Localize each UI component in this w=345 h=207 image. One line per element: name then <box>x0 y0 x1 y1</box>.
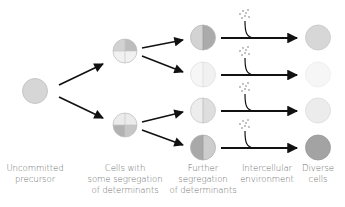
arrows-stage2-to-stage3 <box>142 40 183 145</box>
label-precursor: Uncommitted precursor <box>0 163 70 185</box>
label-diverse-line2: cells <box>295 174 341 185</box>
environment-signal-3 <box>221 82 297 111</box>
diverse-cell-3 <box>306 98 331 123</box>
label-stage3-line2: segregation <box>163 174 243 185</box>
label-env-line1: Intercellular <box>236 163 298 174</box>
label-partial-segregation: Cells with some segregation of determina… <box>80 163 170 196</box>
stage3-cell-4 <box>191 135 216 160</box>
precursor-cell <box>23 79 48 104</box>
stage2-cell-bottom <box>113 113 137 137</box>
label-environment: Intercellular environment <box>236 163 298 185</box>
label-stage2-line2: some segregation <box>80 174 170 185</box>
stage2-cell-top <box>113 39 137 63</box>
label-precursor-line1: Uncommitted <box>0 163 70 174</box>
label-diverse-cells: Diverse cells <box>295 163 341 185</box>
label-stage3-line3: of determinants <box>163 185 243 196</box>
label-env-line2: environment <box>236 174 298 185</box>
diverse-cell-1 <box>306 25 331 50</box>
label-further-segregation: Further segregation of determinants <box>163 163 243 196</box>
label-diverse-line1: Diverse <box>295 163 341 174</box>
arrow-precursor-to-bottom <box>59 97 103 118</box>
environment-signal-4 <box>221 119 297 148</box>
diverse-cell-4 <box>306 135 331 160</box>
label-stage2-line3: of determinants <box>80 185 170 196</box>
label-stage3-line1: Further <box>163 163 243 174</box>
stage3-cell-1 <box>191 25 216 50</box>
stage3-cell-3 <box>191 98 216 123</box>
arrow-precursor-to-top <box>59 64 103 85</box>
diverse-cell-2 <box>306 62 331 87</box>
environment-signal-2 <box>221 46 297 75</box>
label-stage2-line1: Cells with <box>80 163 170 174</box>
environment-signal-1 <box>221 9 297 38</box>
label-precursor-line2: precursor <box>0 174 70 185</box>
stage3-cell-2 <box>191 62 216 87</box>
